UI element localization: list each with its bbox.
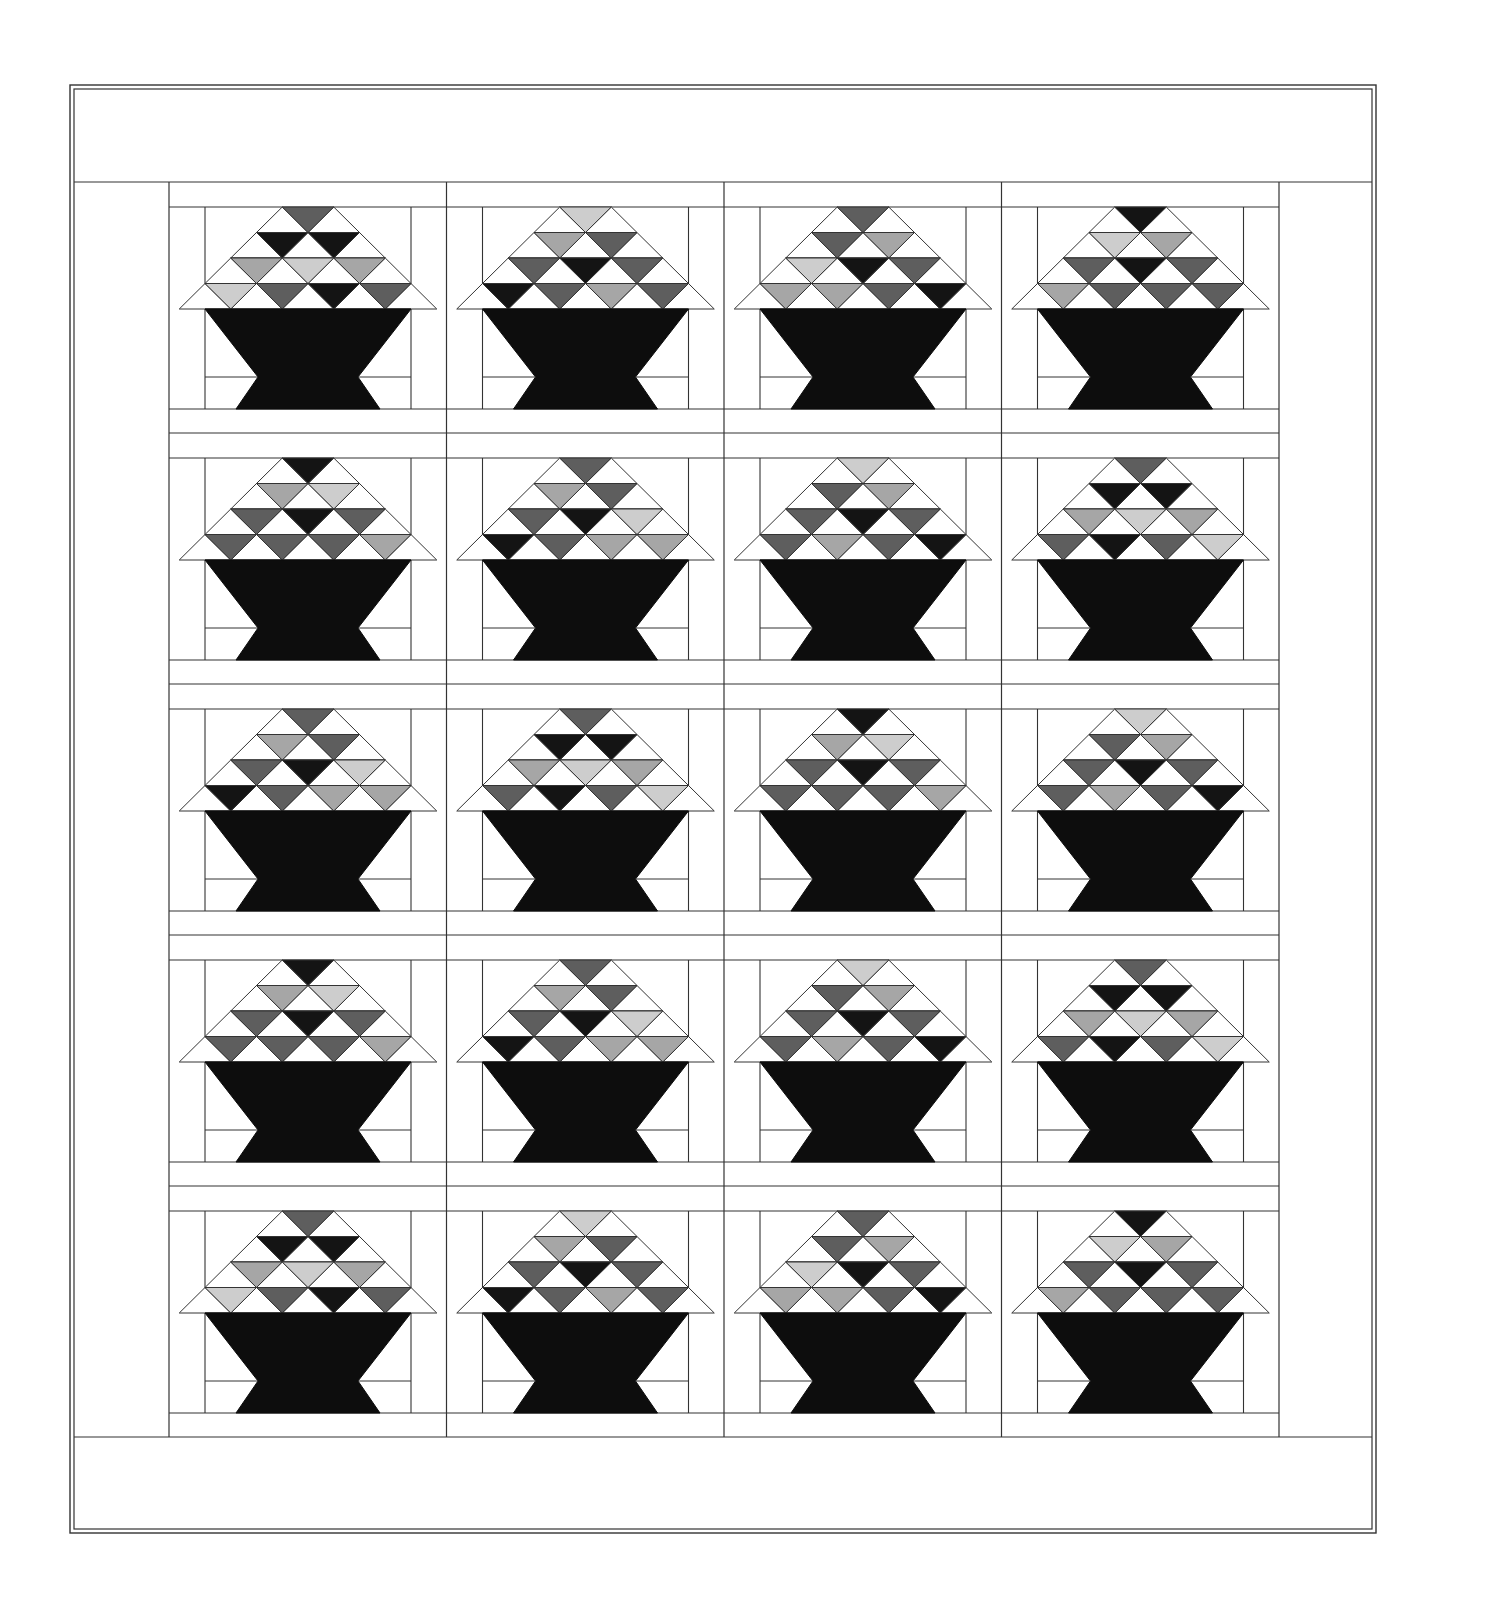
basket-body — [483, 1313, 689, 1413]
basket-block — [169, 1211, 447, 1413]
basket-block — [1002, 960, 1280, 1162]
basket-body — [760, 1313, 966, 1413]
basket-body — [760, 1062, 966, 1162]
basket-body — [205, 811, 411, 911]
basket-block — [724, 960, 1002, 1162]
basket-block — [447, 207, 725, 409]
basket-body — [205, 1313, 411, 1413]
basket-body — [1038, 811, 1244, 911]
quilt-diagram — [0, 0, 1485, 1608]
basket-block — [724, 1211, 1002, 1413]
basket-block — [447, 1211, 725, 1413]
basket-block — [169, 709, 447, 911]
basket-block — [1002, 1211, 1280, 1413]
basket-block — [169, 458, 447, 660]
basket-body — [205, 1062, 411, 1162]
basket-block — [447, 458, 725, 660]
basket-block — [1002, 709, 1280, 911]
basket-body — [1038, 1062, 1244, 1162]
basket-block — [724, 709, 1002, 911]
basket-block — [169, 207, 447, 409]
basket-block — [724, 207, 1002, 409]
basket-block — [724, 458, 1002, 660]
basket-body — [483, 309, 689, 409]
basket-body — [205, 309, 411, 409]
basket-body — [1038, 560, 1244, 660]
basket-block — [447, 709, 725, 911]
basket-body — [1038, 309, 1244, 409]
basket-body — [1038, 1313, 1244, 1413]
basket-body — [483, 1062, 689, 1162]
basket-block — [169, 960, 447, 1162]
basket-block — [1002, 207, 1280, 409]
basket-body — [760, 560, 966, 660]
basket-body — [205, 560, 411, 660]
basket-block — [447, 960, 725, 1162]
basket-body — [760, 309, 966, 409]
basket-body — [483, 811, 689, 911]
basket-body — [760, 811, 966, 911]
basket-block — [1002, 458, 1280, 660]
basket-body — [483, 560, 689, 660]
